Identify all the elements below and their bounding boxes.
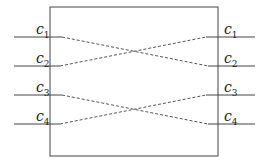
right-label-c1: c1 [224,22,238,40]
left-label-c2: c2 [36,51,50,69]
right-label-c4: c4 [224,109,238,127]
box [50,7,218,156]
left-label-c3: c3 [36,80,50,98]
left-label-c4: c4 [36,109,50,127]
right-label-c3: c3 [224,80,238,98]
right-label-c2: c2 [224,51,238,69]
left-label-c1: c1 [36,22,50,40]
